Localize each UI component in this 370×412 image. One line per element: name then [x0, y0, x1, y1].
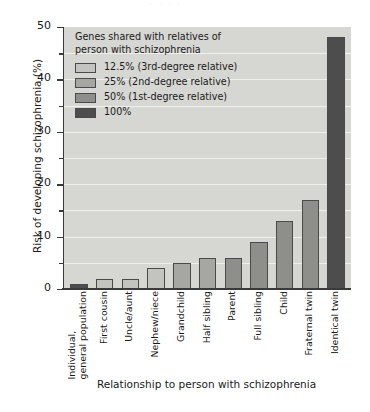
y-tick-label-20: 20 — [37, 176, 51, 189]
x-label-slot-9: Fraternal twin — [297, 291, 323, 373]
y-tick-mark-15 — [59, 210, 63, 211]
legend-item-50[interactable]: 50% (1st-degree relative) — [75, 91, 290, 105]
legend-label-12-5: 12.5% (3rd-degree relative) — [104, 61, 237, 73]
bar-slot-fraternal-twin — [298, 27, 324, 289]
legend-swatch-100 — [75, 108, 96, 118]
x-axis-title: Relationship to person with schizophreni… — [63, 378, 350, 390]
y-tick-mark-45 — [59, 53, 63, 54]
legend-swatch-25 — [75, 78, 96, 88]
y-tick-label-10: 10 — [37, 229, 51, 242]
x-label-grandchild: Grandchild — [175, 291, 186, 342]
x-label-nephew-niece: Nephew/niece — [150, 291, 161, 358]
x-label-slot-5: Half sibling — [194, 291, 220, 373]
y-tick-mark-5 — [59, 263, 63, 264]
legend-swatch-12-5 — [75, 63, 96, 73]
x-label-individual-general-population: Individual, general population — [67, 291, 89, 380]
x-label-full-sibling: Full sibling — [253, 291, 264, 341]
bar-full-sibling[interactable] — [250, 242, 267, 289]
y-tick-mark-35 — [59, 106, 63, 107]
legend-title-line1: Genes shared with relatives of — [75, 31, 290, 43]
legend-label-100: 100% — [104, 106, 131, 118]
y-tick-mark-30 — [57, 132, 63, 133]
schizophrenia-risk-bar-chart: · · · · Risk of developing schizophrenia… — [0, 0, 370, 412]
legend-item-25[interactable]: 25% (2nd-degree relative) — [75, 76, 290, 90]
x-label-slot-3: Nephew/niece — [142, 291, 168, 373]
x-label-slot-6: Parent — [219, 291, 245, 373]
x-label-slot-10: Identical twin — [322, 291, 348, 373]
x-label-parent: Parent — [227, 291, 238, 321]
x-label-slot-7: Full sibling — [245, 291, 271, 373]
bar-parent[interactable] — [225, 258, 242, 289]
legend-item-100[interactable]: 100% — [75, 106, 290, 120]
x-label-identical-twin: Identical twin — [330, 291, 341, 354]
y-tick-mark-20 — [57, 184, 63, 185]
y-tick-mark-10 — [57, 237, 63, 238]
y-tick-label-50: 50 — [37, 19, 51, 32]
y-tick-mark-50 — [57, 27, 63, 28]
x-axis-tick-labels: Individual, general population First cou… — [63, 291, 350, 373]
scan-artifact-top-text: · · · · — [150, 0, 340, 9]
bar-fraternal-twin[interactable] — [302, 200, 319, 289]
y-tick-mark-25 — [59, 158, 63, 159]
bar-nephew-niece[interactable] — [147, 268, 164, 289]
legend-swatch-50 — [75, 93, 96, 103]
y-tick-label-40: 40 — [37, 71, 51, 84]
x-label-slot-1: First cousin — [91, 291, 117, 373]
legend-label-50: 50% (1st-degree relative) — [104, 91, 227, 103]
x-label-child: Child — [278, 291, 289, 315]
y-tick-label-0: 0 — [44, 281, 51, 294]
legend: Genes shared with relatives of person wi… — [75, 31, 290, 121]
bar-child[interactable] — [276, 221, 293, 289]
y-axis-title: Risk of developing schizophrenia (%) — [31, 31, 43, 281]
legend-item-12-5[interactable]: 12.5% (3rd-degree relative) — [75, 61, 290, 75]
x-label-first-cousin: First cousin — [98, 291, 109, 344]
bar-identical-twin[interactable] — [327, 37, 344, 289]
x-label-slot-4: Grandchild — [168, 291, 194, 373]
y-tick-label-30: 30 — [37, 124, 51, 137]
x-label-slot-2: Uncle/aunt — [116, 291, 142, 373]
legend-label-25: 25% (2nd-degree relative) — [104, 76, 230, 88]
x-label-slot-0: Individual, general population — [65, 291, 91, 373]
x-label-half-sibling: Half sibling — [201, 291, 212, 343]
x-label-uncle-aunt: Uncle/aunt — [124, 291, 135, 342]
y-tick-mark-40 — [57, 79, 63, 80]
x-label-fraternal-twin: Fraternal twin — [304, 291, 315, 356]
bar-grandchild[interactable] — [173, 263, 190, 289]
bar-slot-identical-twin — [323, 27, 349, 289]
legend-title-line2: person with schizophrenia — [75, 44, 290, 56]
x-label-slot-8: Child — [271, 291, 297, 373]
x-label-line-0-1: general population — [78, 291, 89, 380]
bar-half-sibling[interactable] — [199, 258, 216, 289]
